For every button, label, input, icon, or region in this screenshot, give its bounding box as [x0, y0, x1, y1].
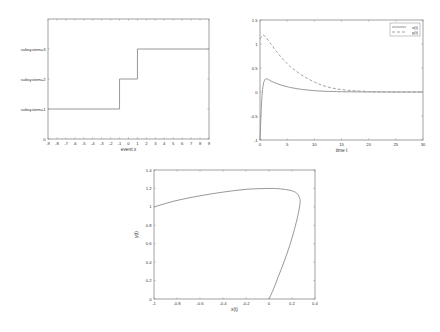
series-trajectory — [154, 188, 300, 299]
x-tick-label: -8 — [55, 141, 59, 146]
x-tick-label: -0.8 — [173, 301, 181, 306]
x-tick-label: -4 — [91, 141, 95, 146]
x-tick-label: 6 — [181, 141, 184, 146]
y-tick-label: -1 — [254, 138, 258, 143]
x-tick-label: 0 — [127, 141, 130, 146]
x-tick-label: -1 — [118, 141, 122, 146]
x-tick-label: 5 — [172, 141, 175, 146]
y-axis-label: y(t) — [134, 231, 139, 238]
x-tick-label: 30 — [421, 142, 426, 147]
plot-frame — [154, 170, 315, 299]
y-tick-label: 1.5 — [252, 18, 258, 23]
x-tick-label: 15 — [339, 142, 344, 147]
x-tick-label: 0 — [259, 142, 262, 147]
legend-label: y(t) — [412, 30, 419, 35]
y-tick-label: subsystem=2 — [21, 77, 46, 82]
y-tick-label: 0.8 — [146, 223, 152, 228]
series-y-t- — [260, 35, 423, 92]
x-axis-label: time t — [336, 148, 348, 153]
x-tick-label: 5 — [286, 142, 289, 147]
y-tick-label: 1.4 — [146, 168, 152, 173]
x-tick-label: 25 — [393, 142, 398, 147]
x-tick-label: 4 — [163, 141, 166, 146]
x-axis-label: x(t) — [231, 307, 238, 312]
x-tick-label: -9 — [46, 141, 50, 146]
x-axis-label: event x — [121, 147, 137, 152]
x-tick-label: 9 — [208, 141, 211, 146]
x-tick-label: -0.6 — [196, 301, 204, 306]
legend: x(t)y(t) — [390, 23, 420, 36]
y-tick-label: 0.4 — [146, 260, 152, 265]
x-tick-label: -6 — [73, 141, 77, 146]
series-x-t- — [260, 79, 423, 140]
y-tick-label: subsystem=1 — [21, 107, 46, 112]
time-response-chart: 051015202530-1-0.500.511.5time tx(t)y(t) — [250, 18, 426, 154]
x-tick-label: 3 — [154, 141, 157, 146]
x-tick-label: 0.4 — [312, 301, 318, 306]
x-tick-label: -1 — [152, 301, 156, 306]
y-tick-label: subsystem=3 — [21, 47, 46, 52]
switching-signal-chart: -9-8-7-6-5-4-3-2-101234567890subsystem=1… — [21, 19, 211, 152]
x-tick-label: -3 — [100, 141, 104, 146]
phase-portrait-chart: -1-0.8-0.6-0.4-0.200.20.400.20.40.60.811… — [134, 168, 319, 313]
y-tick-label: 1 — [149, 204, 152, 209]
x-tick-label: -5 — [82, 141, 86, 146]
x-tick-label: 10 — [312, 142, 317, 147]
y-tick-label: 1.2 — [146, 186, 152, 191]
y-tick-label: 0.5 — [252, 66, 258, 71]
y-tick-label: 0 — [255, 90, 258, 95]
y-tick-label: 1 — [255, 42, 258, 47]
y-tick-label: 0.2 — [146, 278, 152, 283]
x-tick-label: 0 — [268, 301, 271, 306]
x-tick-label: 20 — [366, 142, 371, 147]
x-tick-label: -2 — [109, 141, 113, 146]
y-tick-label: 0.6 — [146, 241, 152, 246]
x-tick-label: 7 — [190, 141, 193, 146]
x-tick-label: -0.2 — [242, 301, 250, 306]
x-tick-label: -0.4 — [219, 301, 227, 306]
x-tick-label: 2 — [145, 141, 148, 146]
figure-canvas: -9-8-7-6-5-4-3-2-101234567890subsystem=1… — [0, 0, 440, 332]
plot-frame — [260, 20, 423, 140]
series-switching-signal — [48, 49, 209, 109]
x-tick-label: -7 — [64, 141, 68, 146]
y-tick-label: -0.5 — [250, 114, 258, 119]
x-tick-label: 1 — [136, 141, 139, 146]
x-tick-label: 8 — [199, 141, 202, 146]
x-tick-label: 0.2 — [289, 301, 295, 306]
